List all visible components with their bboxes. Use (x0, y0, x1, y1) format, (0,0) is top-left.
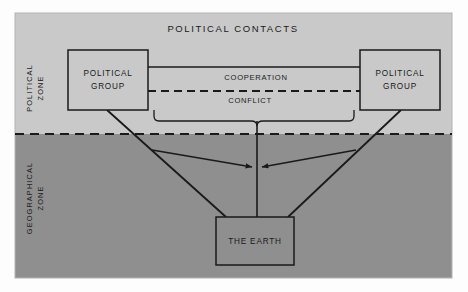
left-political-group-box[interactable] (68, 50, 148, 110)
right-political-group-label-line1: POLITICAL (375, 69, 424, 78)
geographical-zone-label-line1: GEOGRAPHICAL (25, 162, 34, 234)
political-zone-label-line2: ZONE (36, 76, 45, 101)
cooperation-label: COOPERATION (224, 73, 287, 82)
political-zone-label-line1: POLITICAL (25, 64, 34, 112)
figure-container: POLITICAL CONTACTS POLITICAL GROUP POLIT… (0, 0, 468, 292)
left-political-group-label-line2: GROUP (91, 82, 125, 91)
right-political-group-box[interactable] (360, 50, 440, 110)
left-political-group-label-line1: POLITICAL (83, 69, 132, 78)
diagram-title: POLITICAL CONTACTS (167, 23, 298, 34)
geographical-zone-label-line2: ZONE (36, 186, 45, 211)
conflict-label: CONFLICT (228, 96, 272, 105)
political-contacts-diagram: POLITICAL CONTACTS POLITICAL GROUP POLIT… (0, 0, 468, 292)
earth-label: THE EARTH (228, 237, 281, 246)
right-political-group-label-line2: GROUP (383, 82, 417, 91)
